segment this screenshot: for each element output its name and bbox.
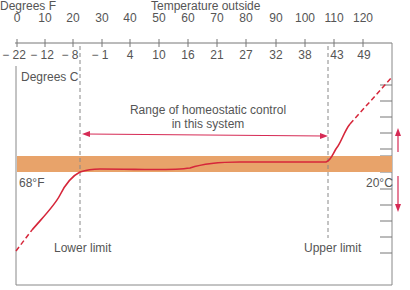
lower-limit-label: Lower limit bbox=[54, 242, 111, 254]
setpoint-c-label: 20°C bbox=[366, 177, 393, 189]
range-label: Range of homeostatic control in this sys… bbox=[118, 104, 298, 130]
range-label-line2: in this system bbox=[118, 118, 298, 130]
range-label-line1: Range of homeostatic control bbox=[118, 104, 298, 116]
setpoint-f-label: 68°F bbox=[19, 177, 44, 189]
upper-limit-label: Upper limit bbox=[304, 242, 361, 254]
